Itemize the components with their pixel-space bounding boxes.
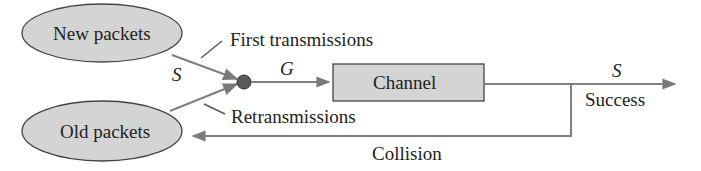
retransmissions-label: Retransmissions [231,107,356,126]
first-transmissions-leader [201,41,222,58]
old-packets-label: Old packets [60,122,150,141]
g-label: G [280,59,294,78]
success-label: Success [585,90,645,109]
first-transmissions-label: First transmissions [230,30,373,49]
channel-label: Channel [373,73,436,92]
old-to-junction-arrow [170,84,237,111]
new-packets-label: New packets [53,24,151,43]
s-output-label: S [612,61,622,80]
aloha-diagram: New packets Old packets Channel First tr… [0,0,701,171]
retransmissions-leader [204,104,225,114]
collision-label: Collision [372,144,442,163]
s-input-label: S [172,65,182,84]
junction-node [237,75,251,89]
